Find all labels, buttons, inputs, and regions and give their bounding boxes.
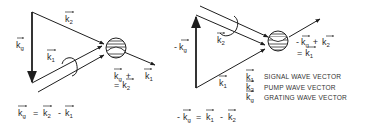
wave-vector-diagram: kg k2 k1 k1 kg+ =k2 kg =	[0, 0, 381, 132]
svg-text:GRATING WAVE VECTOR: GRATING WAVE VECTOR	[264, 94, 347, 101]
polarization-curl-icon	[62, 58, 77, 76]
k1-arrow	[196, 49, 265, 88]
left-equation: kg = k2 - k1	[18, 106, 74, 120]
legend-item-pump: k2 PUMP WAVE VECTOR	[246, 81, 336, 93]
svg-text:k2: k2	[65, 14, 74, 25]
crystal-icon	[266, 31, 290, 51]
left-diagram: kg k2 k1 k1 kg+ =k2 kg =	[16, 12, 155, 120]
label-k2: k2	[65, 12, 74, 25]
svg-text:kg = k2: kg = k2 - k1	[18, 108, 74, 120]
k1-output-arrow	[124, 52, 155, 65]
legend-item-grating: kg GRATING WAVE VECTOR	[246, 91, 347, 103]
crystal-icon	[104, 38, 128, 58]
label-k2: k2	[217, 33, 226, 46]
svg-text:k2: k2	[217, 35, 226, 46]
label-neg-kg: -kg	[174, 40, 189, 53]
label-sum-equals-k1: =k1	[297, 47, 316, 59]
right-diagram: -kg k2 k1 -kg+k2 =k1 k1 SIGNAL WAVE VECT…	[174, 6, 347, 124]
label-sum-neg-kg-plus-k2: -kg+k2	[296, 36, 334, 48]
svg-text:-kg: -kg	[174, 42, 187, 53]
legend: k1 SIGNAL WAVE VECTOR k2 PUMP WAVE VECTO…	[246, 70, 347, 103]
label-kg: kg	[16, 38, 24, 51]
k1-arrow	[32, 46, 102, 83]
svg-text:kg: kg	[246, 92, 254, 103]
label-k1: k1	[219, 76, 228, 89]
label-k1: k1	[47, 50, 56, 63]
svg-text:=k1: =k1	[297, 48, 314, 59]
svg-text:k1: k1	[219, 78, 228, 89]
svg-text:k1: k1	[47, 52, 56, 63]
right-equation: - kg = k1 - k2	[177, 110, 237, 124]
svg-text:SIGNAL WAVE VECTOR: SIGNAL WAVE VECTOR	[264, 73, 341, 80]
k1-output-arrow	[289, 19, 320, 37]
svg-text:k1: k1	[145, 71, 154, 82]
svg-text:kg: kg	[16, 40, 24, 51]
svg-text:=k2: =k2	[114, 80, 131, 91]
svg-text:PUMP WAVE VECTOR: PUMP WAVE VECTOR	[264, 84, 336, 91]
label-k1-output: k1	[144, 69, 154, 82]
svg-text:-kg+k2: -kg+k2	[296, 37, 331, 48]
svg-text:- kg =: - kg = k1 - k2	[177, 112, 237, 124]
legend-item-signal: k1 SIGNAL WAVE VECTOR	[246, 70, 341, 83]
